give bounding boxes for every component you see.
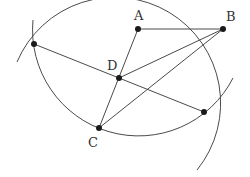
label-c: C bbox=[88, 135, 98, 150]
label-a: A bbox=[133, 8, 144, 23]
point-a bbox=[135, 26, 141, 32]
point-c bbox=[96, 125, 102, 131]
geometry-diagram: A B C D bbox=[0, 0, 250, 177]
point-b bbox=[220, 26, 226, 32]
label-b: B bbox=[226, 9, 236, 24]
point-p1 bbox=[31, 41, 37, 47]
arc-centered-a bbox=[33, 20, 233, 136]
point-p2 bbox=[201, 109, 207, 115]
point-d bbox=[116, 75, 122, 81]
label-d: D bbox=[107, 58, 117, 73]
